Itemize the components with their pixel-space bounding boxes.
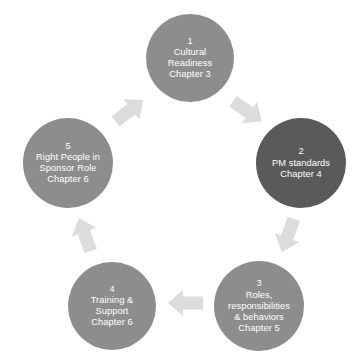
node-5-number: 5 — [65, 141, 70, 152]
process-cycle-diagram: 1 Cultural Readiness Chapter 3 2 PM stan… — [0, 0, 364, 363]
node-2-line-1: PM standards — [272, 158, 330, 169]
node-4-line-1: Training & — [91, 295, 134, 306]
node-2-number: 2 — [298, 146, 303, 157]
node-3-line-4: Chapter 5 — [238, 323, 279, 334]
node-3-number: 3 — [256, 278, 261, 289]
node-3-line-2: responsibilities — [228, 301, 290, 312]
node-5-line-2: Sponsor Role — [40, 163, 97, 174]
process-node-2[interactable]: 2 PM standards Chapter 4 — [256, 118, 346, 208]
node-3-line-1: Roles, — [246, 290, 273, 301]
node-1-line-2: Readiness — [168, 58, 212, 69]
node-5-line-1: Right People in — [36, 152, 100, 163]
process-node-1[interactable]: 1 Cultural Readiness Chapter 3 — [146, 14, 234, 102]
node-5-line-3: Chapter 6 — [47, 174, 88, 185]
process-node-3[interactable]: 3 Roles, responsibilities & behaviors Ch… — [214, 261, 304, 351]
node-3-line-3: & behaviors — [234, 312, 284, 323]
node-4-number: 4 — [109, 284, 114, 295]
process-node-5[interactable]: 5 Right People in Sponsor Role Chapter 6 — [23, 118, 113, 208]
node-4-line-2: Support — [96, 306, 129, 317]
node-1-line-1: Cultural — [174, 47, 206, 58]
node-4-line-3: Chapter 6 — [91, 317, 132, 328]
process-node-4[interactable]: 4 Training & Support Chapter 6 — [68, 262, 156, 350]
node-1-number: 1 — [187, 36, 192, 47]
node-1-line-3: Chapter 3 — [169, 69, 210, 80]
node-2-line-2: Chapter 4 — [280, 169, 321, 180]
